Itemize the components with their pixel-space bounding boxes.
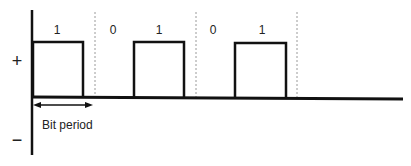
arrow-head-right-icon [85, 102, 93, 108]
positive-label: + [12, 51, 23, 71]
bit-label-1: 1 [54, 23, 61, 37]
pulse-2 [134, 42, 184, 97]
bit-label-4: 0 [210, 23, 217, 37]
pulse-3 [235, 43, 286, 98]
bit-period-label: Bit period [42, 118, 93, 132]
bit-label-5: 1 [259, 23, 266, 37]
baseline [32, 97, 403, 99]
bit-label-3: 1 [156, 23, 163, 37]
waveform-diagram: 1 0 1 0 1 + − Bit period [0, 0, 411, 166]
negative-label: − [12, 130, 23, 150]
pulse-1 [33, 42, 83, 97]
bit-label-2: 0 [110, 23, 117, 37]
arrow-head-left-icon [33, 102, 41, 108]
